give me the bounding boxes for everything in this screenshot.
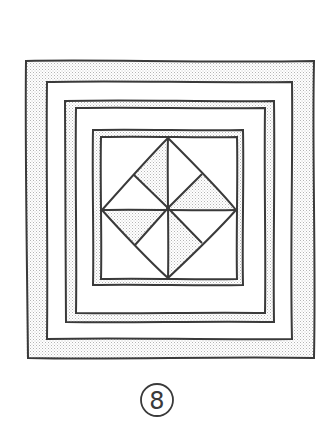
shaded-triangle-bottom [168, 208, 202, 278]
shaded-triangle-right [168, 174, 236, 210]
figure-number-label: 8 [141, 384, 173, 416]
shaded-triangle-left [102, 208, 168, 245]
quilt-block-diagram: 8 [0, 0, 332, 429]
center-pinwheel-block [102, 138, 236, 278]
shaded-triangle-top [134, 138, 168, 208]
figure-number: 8 [149, 387, 164, 415]
